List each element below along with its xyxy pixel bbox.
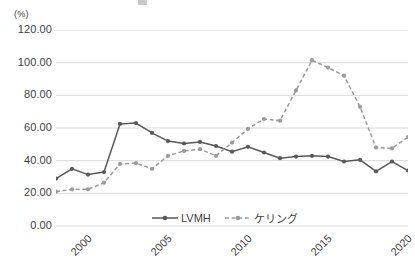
data-point (118, 162, 122, 166)
data-point (198, 140, 202, 144)
y-tick-0.00: 0.00 (0, 219, 52, 231)
legend-swatch-icon (225, 213, 251, 223)
data-point (214, 144, 218, 148)
y-axis-unit-label: (%) (14, 9, 29, 19)
data-point (134, 121, 138, 125)
data-point (326, 155, 330, 159)
data-point (198, 147, 202, 151)
legend-swatch-icon (152, 213, 178, 223)
legend-label: ケリング (254, 210, 298, 226)
y-tick-80.00: 80.00 (0, 88, 52, 100)
data-point (118, 122, 122, 126)
y-tick-40.00: 40.00 (0, 154, 52, 166)
data-point (230, 150, 234, 154)
legend-item-LVMH[interactable]: LVMH (152, 212, 211, 224)
x-tick-2020: 2020 (388, 232, 414, 258)
data-point (150, 131, 154, 135)
data-point (262, 117, 266, 121)
data-point (166, 154, 170, 158)
data-point (358, 105, 362, 109)
data-point (134, 161, 138, 165)
data-point (310, 58, 314, 62)
y-tick-120.00: 120.00 (0, 23, 52, 35)
data-point (150, 167, 154, 171)
plot-area (56, 30, 408, 226)
data-point (374, 146, 378, 150)
data-point (182, 141, 186, 145)
data-point (86, 173, 90, 177)
data-point (390, 159, 394, 163)
data-point (326, 66, 330, 70)
data-point (182, 149, 186, 153)
data-point (294, 88, 298, 92)
data-point (342, 159, 346, 163)
data-point (310, 154, 314, 158)
data-point (102, 170, 106, 174)
data-point (102, 181, 106, 185)
data-point (262, 150, 266, 154)
data-point (390, 146, 394, 150)
x-tick-2005: 2005 (148, 232, 174, 258)
data-point (358, 158, 362, 162)
data-point (166, 139, 170, 143)
data-point (214, 154, 218, 158)
data-point (230, 141, 234, 145)
y-tick-100.00: 100.00 (0, 56, 52, 68)
legend-item-ケリング[interactable]: ケリング (225, 210, 298, 226)
top-cropped-mark (138, 0, 147, 5)
chart-svg (56, 30, 408, 228)
data-point (246, 127, 250, 131)
legend-label: LVMH (181, 212, 211, 224)
x-tick-2015: 2015 (308, 232, 334, 258)
data-point (374, 169, 378, 173)
x-tick-2000: 2000 (68, 232, 94, 258)
data-point (70, 167, 74, 171)
x-tick-2010: 2010 (228, 232, 254, 258)
y-tick-20.00: 20.00 (0, 186, 52, 198)
chart-legend: LVMHケリング (152, 210, 298, 226)
data-point (278, 156, 282, 160)
data-point (294, 155, 298, 159)
series-line-ケリング (56, 60, 408, 192)
data-point (86, 187, 90, 191)
data-point (278, 119, 282, 123)
y-tick-60.00: 60.00 (0, 121, 52, 133)
data-point (70, 187, 74, 191)
chart-container: (%) 0.0020.0040.0060.0080.00100.00120.00… (0, 0, 415, 275)
data-point (342, 74, 346, 78)
data-point (246, 145, 250, 149)
